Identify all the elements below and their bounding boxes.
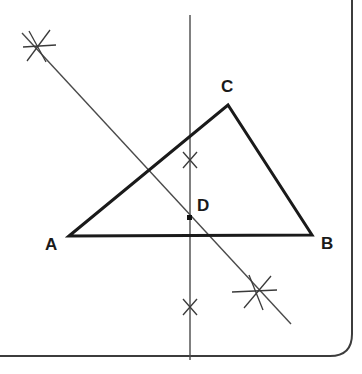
page-border [0, 0, 352, 356]
arc-mark-top-left [23, 30, 56, 62]
figure-canvas: A B C D [0, 0, 362, 374]
geometry-figure [0, 0, 362, 374]
point-d-marker [187, 215, 192, 220]
vertex-label-b: B [321, 235, 333, 252]
arc-mark-bottom-right [232, 275, 277, 310]
vertex-label-c: C [221, 78, 233, 95]
vertex-label-a: A [45, 236, 57, 253]
vertex-label-d: D [197, 197, 209, 214]
